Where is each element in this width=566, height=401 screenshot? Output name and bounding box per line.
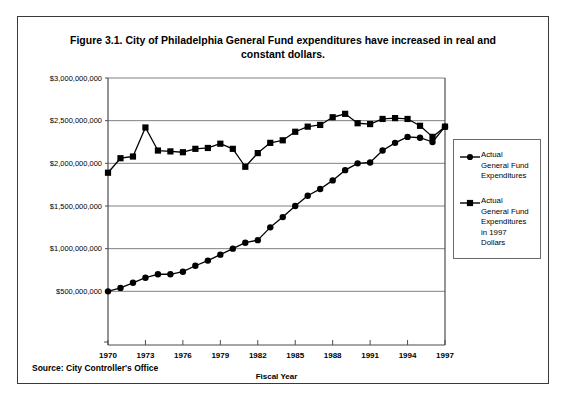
data-point — [142, 124, 148, 130]
data-point — [417, 123, 423, 129]
data-point — [342, 111, 348, 117]
data-point — [167, 148, 173, 154]
data-point — [392, 140, 398, 146]
data-point — [330, 114, 336, 120]
data-point — [280, 137, 286, 143]
x-axis-tick-label: 1997 — [436, 351, 454, 360]
data-point — [117, 285, 123, 291]
figure-frame: Figure 3.1. City of Philadelphia General… — [17, 16, 549, 384]
data-series — [105, 111, 448, 295]
data-point — [354, 160, 360, 166]
data-point — [255, 237, 261, 243]
data-point — [180, 149, 186, 155]
data-point — [155, 147, 161, 153]
data-point — [255, 150, 261, 156]
data-point — [192, 146, 198, 152]
data-point — [429, 134, 435, 140]
y-axis-tick-label: $1,000,000,000 — [50, 244, 102, 253]
data-point — [404, 134, 410, 140]
x-axis-tick-label: 1976 — [174, 351, 192, 360]
data-point — [105, 288, 111, 294]
data-point — [367, 159, 373, 165]
data-point — [217, 251, 223, 257]
circle-marker-icon — [460, 152, 480, 162]
x-axis-title: Fiscal Year — [256, 372, 298, 381]
data-point — [205, 257, 211, 263]
data-point — [305, 193, 311, 199]
legend-item-constant: Actual General Fund Expenditures in 1997… — [460, 196, 529, 249]
x-axis-tick-label: 1991 — [361, 351, 379, 360]
data-point — [317, 122, 323, 128]
square-marker-icon — [460, 198, 480, 208]
data-point — [355, 120, 361, 126]
x-axis-tick-label: 1982 — [249, 351, 267, 360]
data-point — [292, 129, 298, 135]
y-axis-tick-label: $2,500,000,000 — [50, 116, 102, 125]
data-point — [155, 271, 161, 277]
data-point — [292, 203, 298, 209]
x-axis-tick-label: 1988 — [324, 351, 342, 360]
data-point — [130, 280, 136, 286]
data-point — [342, 167, 348, 173]
data-point — [217, 141, 223, 147]
legend-item-actual: Actual General Fund Expenditures — [460, 150, 529, 182]
y-axis-tick-label: $2,000,000,000 — [50, 159, 102, 168]
data-point — [417, 135, 423, 141]
data-point — [442, 124, 448, 130]
data-point — [404, 116, 410, 122]
data-point — [392, 115, 398, 121]
legend-item-constant-label: Actual General Fund Expenditures in 1997… — [481, 196, 529, 249]
data-point — [142, 274, 148, 280]
data-point — [205, 145, 211, 151]
data-point — [180, 269, 186, 275]
data-point — [379, 116, 385, 122]
x-axis-tick-label: 1985 — [286, 351, 304, 360]
x-axis-tick-label: 1994 — [399, 351, 417, 360]
y-axis-tick-label: $3,000,000,000 — [50, 74, 102, 83]
data-point — [105, 170, 111, 176]
data-point — [242, 164, 248, 170]
gridlines — [108, 78, 445, 291]
x-axis-tick-label: 1979 — [211, 351, 229, 360]
data-point — [329, 177, 335, 183]
y-axis-tick-label: $1,500,000,000 — [50, 202, 102, 211]
y-axis-tick-labels: $500,000,000$1,000,000,000$1,500,000,000… — [50, 74, 108, 296]
x-axis-tick-labels: 1970197319761979198219851988199119941997 — [99, 351, 454, 360]
data-point — [117, 155, 123, 161]
data-point — [130, 153, 136, 159]
source-note: Source: City Controller's Office — [32, 363, 158, 373]
data-point — [379, 147, 385, 153]
x-axis-tick-label: 1973 — [137, 351, 155, 360]
data-point — [317, 186, 323, 192]
y-axis-tick-label: $500,000,000 — [56, 287, 102, 296]
data-point — [230, 146, 236, 152]
x-axis-tick-label: 1970 — [99, 351, 117, 360]
data-point — [242, 239, 248, 245]
data-point — [305, 124, 311, 130]
data-point — [367, 121, 373, 127]
data-point — [267, 224, 273, 230]
data-point — [167, 271, 173, 277]
x-axis-ticks — [108, 340, 445, 345]
data-point — [192, 263, 198, 269]
data-point — [230, 245, 236, 251]
legend-item-actual-label: Actual General Fund Expenditures — [481, 150, 529, 182]
data-point — [267, 140, 273, 146]
chart-legend: Actual General Fund Expenditures Actual … — [453, 139, 541, 259]
data-point — [280, 214, 286, 220]
